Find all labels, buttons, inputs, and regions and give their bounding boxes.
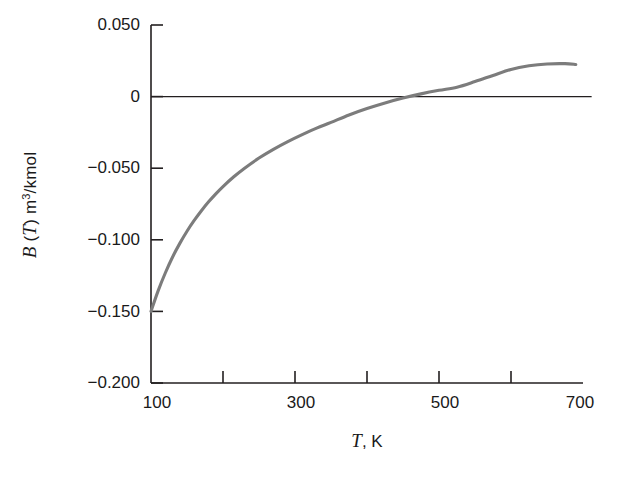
plot-area <box>0 0 629 487</box>
x-tick-marks <box>223 371 511 383</box>
axes-group <box>151 25 583 383</box>
chart-figure: B (T) m3/kmol 0.050 0 −0.050 −0.100 −0.1… <box>0 0 629 487</box>
data-series-line <box>151 64 576 312</box>
y-tick-marks <box>151 25 163 383</box>
